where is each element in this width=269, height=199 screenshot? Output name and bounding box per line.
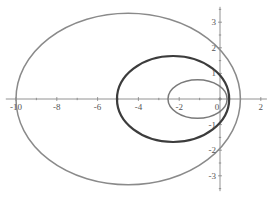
y-tick-label: 1 — [212, 68, 217, 78]
x-tick-label: -4 — [135, 102, 143, 112]
ellipse-plot: -10-8-6-4-202321-1-2-3 — [0, 0, 269, 199]
x-tick-label: -10 — [10, 102, 22, 112]
x-tick-label: -6 — [94, 102, 102, 112]
x-tick-label: 0 — [215, 102, 220, 112]
x-tick-label: 2 — [259, 102, 264, 112]
y-tick-label: -2 — [209, 145, 217, 155]
x-tick-label: -8 — [53, 102, 61, 112]
y-tick-label: -3 — [209, 171, 217, 181]
y-tick-label: -1 — [209, 120, 217, 130]
y-tick-label: 3 — [212, 17, 217, 27]
y-tick-label: 2 — [212, 43, 217, 53]
x-tick-label: -2 — [175, 102, 183, 112]
